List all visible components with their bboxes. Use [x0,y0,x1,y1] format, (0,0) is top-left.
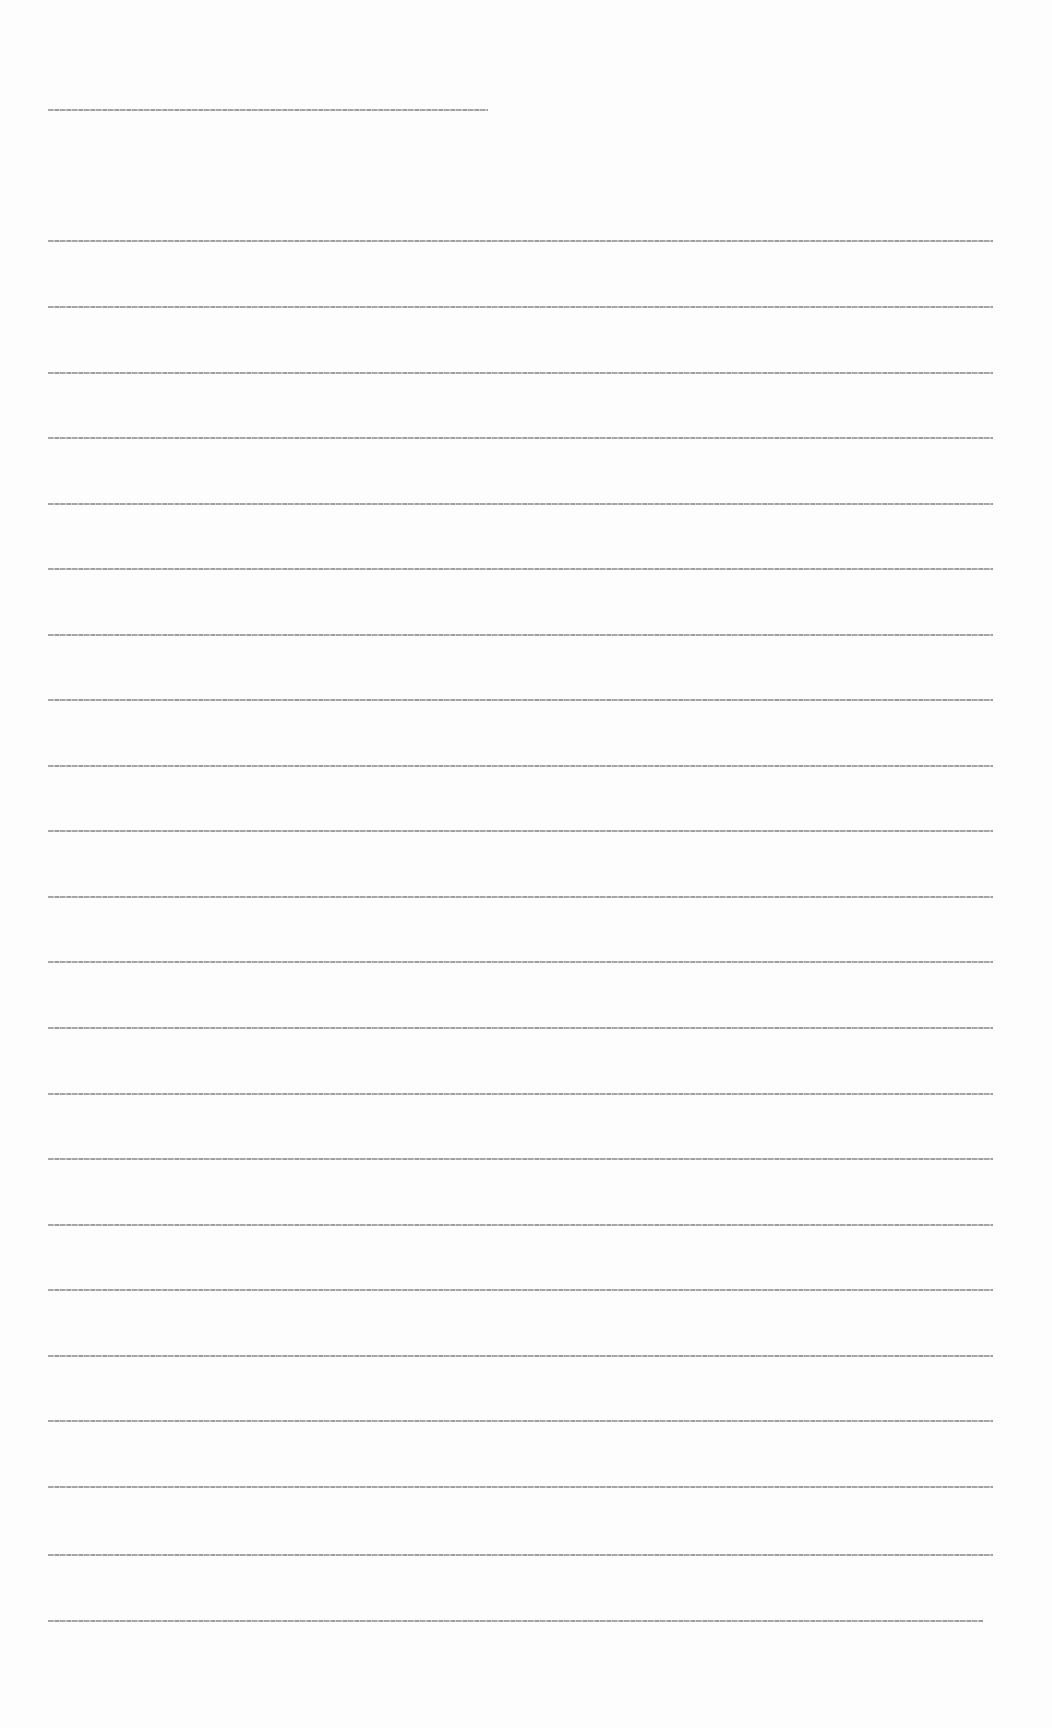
text-line-content: [illegible text line 16] [48,1218,57,1219]
text-line: [illegible text line 12] [48,961,993,963]
text-line: [illegible text line 13] [48,1027,993,1029]
header-line: [illegible header line] [48,109,488,111]
text-line: [illegible text line 21] [48,1554,993,1556]
text-line-content: [illegible text line 14] [48,1087,57,1088]
text-line-content: [illegible text line 8] [48,693,56,694]
text-line: [illegible text line 2] [48,306,993,308]
text-line-content: [illegible text line 18] [48,1349,57,1350]
text-line-content: [illegible text line 15] [48,1152,57,1153]
text-line-content: [illegible text line 7] [48,628,56,629]
text-line-content: [illegible text line 3] [48,366,56,367]
text-line: [illegible text line 16] [48,1224,993,1226]
text-line: [illegible text line 6] [48,568,993,570]
text-line: [illegible text line 7] [48,634,993,636]
header-text: [illegible header line] [48,103,57,104]
text-line-content: [illegible text line 10] [48,824,57,825]
text-line: [illegible text line 20] [48,1486,993,1488]
text-line-content: [illegible text line 2] [48,300,56,301]
text-line-content: [illegible text line 5] [48,497,56,498]
text-line-content: [illegible text line 21] [48,1548,57,1549]
text-line-content: [illegible text line 12] [48,955,57,956]
text-line: [illegible text line 19] [48,1420,993,1422]
text-line: [illegible text line 10] [48,830,993,832]
text-line-content: [illegible text line 19] [48,1414,57,1415]
text-line: [illegible text line 15] [48,1158,993,1160]
document-page: [illegible header line] [illegible text … [0,0,1052,1728]
text-line: [illegible text line 5] [48,503,993,505]
text-line: [illegible text line 14] [48,1093,993,1095]
text-line-content: [illegible text line 13] [48,1021,57,1022]
text-line-content: [illegible text line 9] [48,759,56,760]
text-line: [illegible text line 3] [48,372,993,374]
text-line-content: [illegible text line 11] [48,890,57,891]
text-line-content: [illegible text line 22] [48,1614,57,1615]
text-line-content: [illegible text line 4] [48,431,56,432]
text-line: [illegible text line 8] [48,699,993,701]
text-line: [illegible text line 22] [48,1620,983,1622]
text-line-content: [illegible text line 1] [48,234,56,235]
text-line: [illegible text line 11] [48,896,993,898]
text-line-content: [illegible text line 17] [48,1283,57,1284]
text-line: [illegible text line 9] [48,765,993,767]
text-line-content: [illegible text line 6] [48,562,56,563]
text-line: [illegible text line 18] [48,1355,993,1357]
text-line-content: [illegible text line 20] [48,1480,57,1481]
text-line: [illegible text line 1] [48,240,993,242]
text-line: [illegible text line 4] [48,437,993,439]
text-line: [illegible text line 17] [48,1289,993,1291]
